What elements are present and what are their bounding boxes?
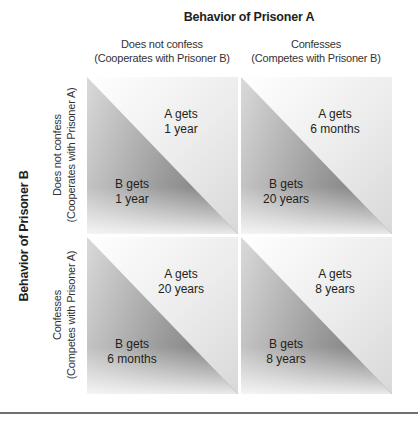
a-payoff-line2: 20 years bbox=[146, 282, 216, 297]
column-header-line1: Confesses bbox=[240, 37, 392, 51]
a-payoff-line1: A gets bbox=[300, 267, 370, 282]
column-header-line1: Does not confess bbox=[86, 37, 238, 51]
a-payoff-line1: A gets bbox=[146, 107, 216, 122]
payoff-cell-a-confesses-b-cooperates: A gets 6 months B gets 20 years bbox=[241, 77, 392, 234]
payoff-matrix: A gets 1 year B gets 1 year A gets 6 mon… bbox=[87, 77, 394, 394]
row-header-line1: Does not confess bbox=[50, 87, 64, 222]
triangle-highlight bbox=[241, 237, 392, 394]
column-header-does-not-confess: Does not confess (Cooperates with Prison… bbox=[86, 37, 238, 65]
b-payoff-label: B gets 20 years bbox=[251, 177, 321, 207]
a-payoff-label: A gets 6 months bbox=[300, 107, 370, 137]
b-payoff-label: B gets 6 months bbox=[97, 337, 167, 367]
a-payoff-line2: 6 months bbox=[300, 122, 370, 137]
b-payoff-line2: 6 months bbox=[97, 352, 167, 367]
column-header-confesses: Confesses (Competes with Prisoner B) bbox=[240, 37, 392, 65]
b-payoff-label: B gets 8 years bbox=[251, 337, 321, 367]
row-header-line2: (Competes with Prisoner A) bbox=[64, 251, 78, 380]
a-payoff-label: A gets 8 years bbox=[300, 267, 370, 297]
payoff-cell-both-cooperate: A gets 1 year B gets 1 year bbox=[87, 77, 238, 234]
triangle-highlight bbox=[87, 237, 238, 394]
bottom-divider bbox=[0, 412, 418, 414]
triangle-highlight bbox=[241, 77, 392, 234]
prisoner-b-title: Behavior of Prisoner B bbox=[17, 170, 31, 301]
b-payoff-line2: 8 years bbox=[251, 352, 321, 367]
column-header-line2: (Competes with Prisoner B) bbox=[240, 51, 392, 65]
a-payoff-line2: 1 year bbox=[146, 122, 216, 137]
a-payoff-line1: A gets bbox=[146, 267, 216, 282]
payoff-cell-both-confess: A gets 8 years B gets 8 years bbox=[241, 237, 392, 394]
b-payoff-line1: B gets bbox=[251, 337, 321, 352]
b-payoff-line1: B gets bbox=[97, 337, 167, 352]
column-header-line2: (Cooperates with Prisoner B) bbox=[86, 51, 238, 65]
a-payoff-label: A gets 1 year bbox=[146, 107, 216, 137]
a-payoff-label: A gets 20 years bbox=[146, 267, 216, 297]
row-header-line1: Confesses bbox=[50, 251, 64, 380]
triangle-highlight bbox=[87, 77, 238, 234]
a-payoff-line2: 8 years bbox=[300, 282, 370, 297]
row-header-confesses: Confesses (Competes with Prisoner A) bbox=[50, 251, 78, 380]
a-payoff-line1: A gets bbox=[300, 107, 370, 122]
b-payoff-line1: B gets bbox=[97, 177, 167, 192]
payoff-cell-a-cooperates-b-confesses: A gets 20 years B gets 6 months bbox=[87, 237, 238, 394]
row-header-does-not-confess: Does not confess (Cooperates with Prison… bbox=[50, 87, 78, 222]
b-payoff-label: B gets 1 year bbox=[97, 177, 167, 207]
row-header-line2: (Cooperates with Prisoner A) bbox=[64, 87, 78, 222]
b-payoff-line1: B gets bbox=[251, 177, 321, 192]
b-payoff-line2: 1 year bbox=[97, 192, 167, 207]
b-payoff-line2: 20 years bbox=[251, 192, 321, 207]
prisoner-a-title: Behavior of Prisoner A bbox=[0, 10, 418, 24]
